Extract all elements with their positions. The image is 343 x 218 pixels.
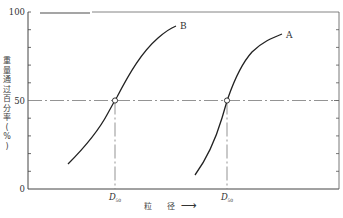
curve-b-label: B [180,21,187,31]
curve-a-label: A [285,30,293,40]
x-axis-arrow-icon: ⟶ [181,199,197,212]
curve-b [68,26,176,164]
y-axis-label: 重量通过百分率(%) [1,56,13,151]
y-tick-50: 50 [14,96,25,106]
x-axis-label: 粒 径 [144,200,181,211]
d50-marker-b [112,98,117,103]
grain-size-distribution-chart: 100 50 0 B A D 50 D 50 [0,0,343,218]
svg-text:50: 50 [116,198,122,203]
d50-label-b: D 50 [108,192,121,203]
svg-text:50: 50 [228,198,234,203]
curve-a [195,34,282,175]
d50-label-a: D 50 [220,192,233,203]
y-tick-100: 100 [9,7,25,17]
y-tick-0: 0 [20,184,25,194]
d50-marker-a [224,98,229,103]
